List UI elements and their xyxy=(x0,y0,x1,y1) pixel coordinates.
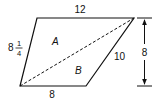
region-b-label: B xyxy=(75,65,82,76)
left-side-whole-label: 8 xyxy=(8,42,14,53)
right-side-label: 10 xyxy=(114,51,126,62)
left-side-numerator-label: 1 xyxy=(17,39,21,48)
left-side-denominator-label: 4 xyxy=(17,49,21,58)
top-side-label: 12 xyxy=(74,4,86,15)
arrow-up-icon xyxy=(142,19,147,25)
arrow-down-icon xyxy=(142,79,147,85)
bottom-side-label: 8 xyxy=(49,89,55,98)
region-a-label: A xyxy=(51,36,59,47)
trapezoid-diagram: 12 8 1 4 10 8 8 A B xyxy=(0,0,153,98)
height-label: 8 xyxy=(142,47,148,58)
